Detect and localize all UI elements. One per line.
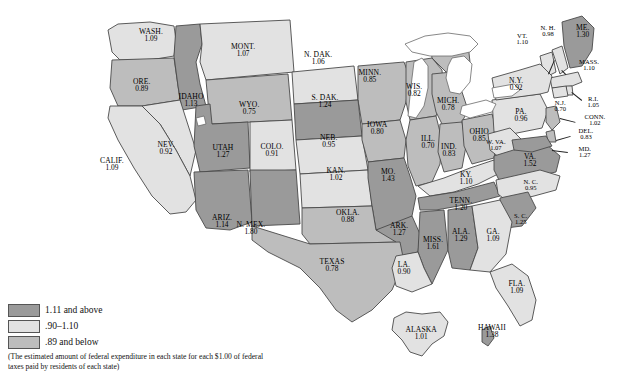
legend-swatch-low	[8, 336, 40, 349]
legend-label-low: .89 and below	[45, 337, 99, 347]
state-shape[interactable]	[562, 16, 594, 68]
states-layer	[108, 16, 594, 356]
great-salt-lake-shape	[196, 116, 206, 126]
state-shape[interactable]	[200, 20, 294, 80]
state-shape[interactable]	[206, 74, 292, 124]
state-shape[interactable]	[470, 200, 512, 272]
state-shape[interactable]	[490, 264, 536, 326]
state-shape[interactable]	[250, 120, 296, 172]
state-shape[interactable]	[392, 312, 448, 356]
state-shape[interactable]	[108, 22, 176, 60]
legend-note: (The estimated amount of federal expendi…	[8, 352, 268, 371]
state-shape[interactable]	[492, 94, 548, 134]
state-shape[interactable]	[250, 170, 300, 226]
state-shape[interactable]	[406, 116, 442, 186]
state-shape[interactable]	[552, 86, 568, 98]
state-shape[interactable]	[296, 136, 368, 174]
lake-huron-shape	[446, 56, 472, 94]
legend-row-mid: .90–1.10	[8, 319, 102, 333]
state-shape[interactable]	[300, 170, 372, 208]
state-shape[interactable]	[294, 100, 362, 140]
state-shape[interactable]	[110, 58, 180, 106]
lake-superior-shape	[405, 33, 478, 56]
legend-row-high: 1.11 and above	[8, 303, 102, 317]
state-shape[interactable]	[194, 170, 252, 230]
map-legend: 1.11 and above .90–1.10 .89 and below	[8, 303, 102, 351]
state-shape[interactable]	[482, 326, 494, 346]
legend-swatch-mid	[8, 320, 40, 333]
state-shape[interactable]	[438, 122, 466, 172]
legend-swatch-high	[8, 304, 40, 317]
legend-row-low: .89 and below	[8, 335, 102, 349]
state-shape[interactable]	[362, 120, 406, 162]
state-shape[interactable]	[546, 106, 560, 130]
state-shape[interactable]	[292, 66, 358, 104]
us-choropleth-map: WASH.1.09ORE.0.89IDAHO1.13MONT.1.07N. DA…	[0, 0, 625, 387]
state-shape[interactable]	[358, 62, 410, 124]
legend-label-mid: .90–1.10	[45, 321, 78, 331]
legend-label-high: 1.11 and above	[45, 305, 102, 315]
